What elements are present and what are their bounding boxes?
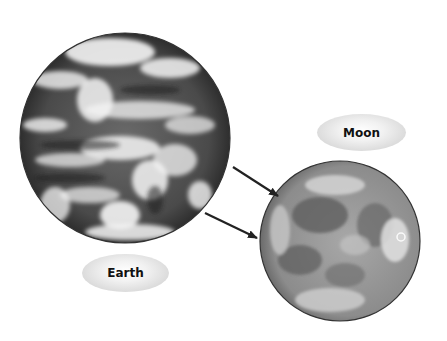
moon-label: Moon	[317, 114, 406, 151]
earth-label-text: Earth	[107, 266, 144, 280]
moon-image	[260, 161, 420, 321]
diagram-canvas	[0, 0, 447, 341]
earth-image	[20, 33, 230, 243]
moon-label-text: Moon	[343, 126, 380, 140]
earth-label: Earth	[82, 254, 169, 292]
arrow-earth-to-moon-upper	[233, 167, 278, 196]
arrow-earth-to-moon-lower	[205, 213, 257, 238]
